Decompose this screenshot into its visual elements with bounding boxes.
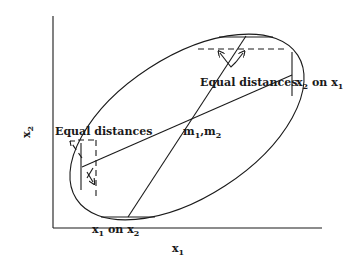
y-axis-label: x2 (20, 126, 35, 138)
label-equal-distances-top: Equal distances (200, 76, 297, 89)
label-x1-on-x2: x1 on x2 (92, 223, 139, 238)
diagram-canvas: Equal distances x2 on x1 Equal distances… (0, 0, 362, 264)
arrow-icon (236, 53, 243, 62)
label-equal-distances-left: Equal distances (55, 125, 152, 138)
dashed-arrow-left (70, 141, 82, 158)
arrow-icon (220, 53, 227, 62)
label-center-m1-m2: m1,m2 (183, 125, 221, 140)
label-x2-on-x1: x2 on x1 (296, 76, 343, 91)
x-axis-label: x1 (172, 242, 184, 257)
